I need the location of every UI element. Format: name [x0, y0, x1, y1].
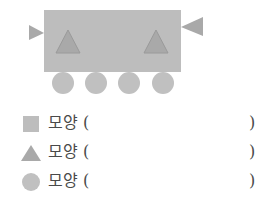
wheel-circle-3: [118, 72, 140, 94]
question-label: 모양 (: [48, 142, 89, 162]
question-row-triangle: 모양 ( ): [0, 141, 272, 165]
wheel-circle-2: [85, 72, 107, 94]
question-label: 모양 (: [48, 113, 89, 133]
wheel-circle-4: [152, 72, 174, 94]
circle-icon: [21, 172, 41, 192]
triangle-icon: [21, 143, 41, 163]
shape-figure: [0, 0, 272, 110]
answer-blank-close: ): [249, 142, 255, 162]
right-flag-triangle: [181, 17, 203, 36]
square-icon: [21, 114, 41, 134]
question-row-square: 모양 ( ): [0, 112, 272, 136]
answer-blank-close: ): [249, 113, 255, 133]
wheel-circle-1: [52, 72, 74, 94]
question-label: 모양 (: [48, 171, 89, 191]
question-row-circle: 모양 ( ): [0, 170, 272, 194]
answer-blank-close: ): [249, 171, 255, 191]
left-flag-triangle: [29, 25, 44, 40]
